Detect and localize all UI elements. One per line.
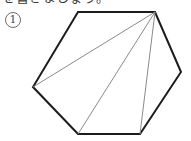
- hexagon-figure: [0, 0, 191, 141]
- worksheet-page: を書きましょう。 1 hexagon divided into triangle…: [0, 0, 191, 141]
